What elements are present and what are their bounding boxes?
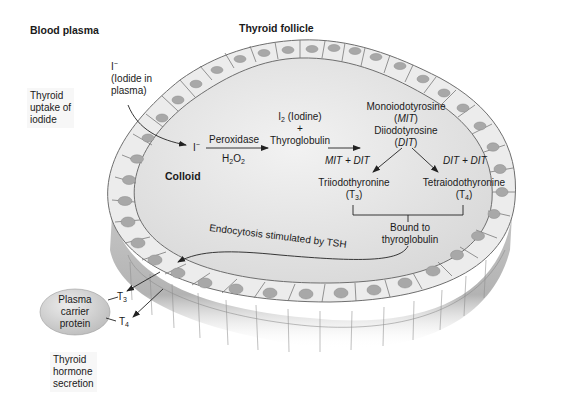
follicle-illustration [0,0,562,411]
mit-dit-reaction: MIT + DIT [325,155,370,167]
t3-abbr: (T3) [314,189,394,201]
uptake-line-2: uptake of [30,102,71,114]
t3-name: Triiodothyronine [314,177,394,189]
t4-secreted-label: T4 [119,316,129,328]
secretion-line-2: hormone [53,366,94,378]
plus-sign: + [270,123,330,135]
mit-abbr: (MIT) [360,113,452,125]
iodide-plasma-line-1: (Iodide in [111,73,152,85]
thyroglobulin-text: Thyroglobulin [270,135,330,147]
iodide-symbol: I− [111,61,152,73]
colloid-label: Colloid [165,170,201,182]
carrier-line-3: protein [48,318,102,330]
iodine-line: I2 (Iodine) [270,111,330,123]
plasma-carrier-protein-label: Plasma carrier protein [48,294,102,330]
t3-label: Triiodothyronine (T3) [314,177,394,201]
secretion-line-1: Thyroid [53,354,94,366]
iodide-plasma-line-2: plasma) [111,85,152,97]
dit-abbr: (DIT) [360,137,452,149]
thyroid-uptake-label: Thyroid uptake of iodide [27,88,74,128]
blood-plasma-label: Blood plasma [30,24,99,36]
peroxidase-label: Peroxidase [209,134,259,146]
t4-abbr: (T4) [418,189,510,201]
bound-line-1: Bound to [375,222,445,234]
carrier-line-2: carrier [48,306,102,318]
iodine-thyroglobulin-label: I2 (Iodine) + Thyroglobulin [270,111,330,147]
hydrogen-peroxide-label: H2O2 [222,153,245,165]
bound-to-thyroglobulin-label: Bound to thyroglobulin [375,222,445,246]
dit-name: Diiodotyrosine [360,125,452,137]
bound-line-2: thyroglobulin [375,234,445,246]
uptake-line-3: iodide [30,114,71,126]
t4-label: Tetraiodothyronine (T4) [418,177,510,201]
mit-name: Monoiodotyrosine [360,101,452,113]
iodide-in-plasma-label: I− (Iodide in plasma) [111,61,152,97]
mit-dit-label: Monoiodotyrosine (MIT) Diiodotyrosine (D… [360,101,452,149]
iodide-in-colloid: I− [193,142,200,154]
secretion-line-3: secretion [53,378,94,390]
carrier-line-1: Plasma [48,294,102,306]
dit-dit-reaction: DIT + DIT [443,155,487,167]
uptake-line-1: Thyroid [30,90,71,102]
t3-secreted-label: T3 [117,291,127,303]
thyroid-hormone-secretion-label: Thyroid hormone secretion [50,352,97,392]
t4-name: Tetraiodothyronine [418,177,510,189]
diagram-title: Thyroid follicle [239,22,314,34]
